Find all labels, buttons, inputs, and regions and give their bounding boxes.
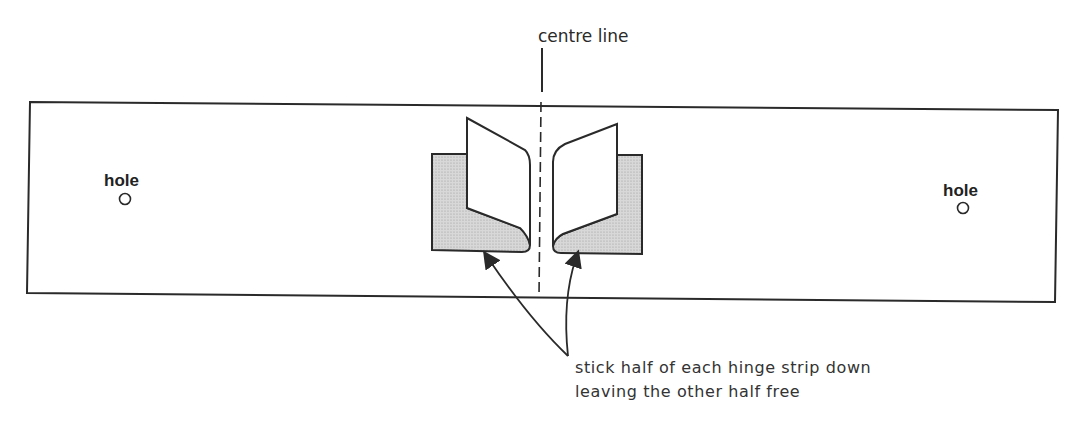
left-hole-icon xyxy=(120,194,131,205)
instruction-line-1: stick half of each hinge strip down xyxy=(575,358,871,377)
right-hole-label: hole xyxy=(943,181,978,200)
arrow-to-left-hinge xyxy=(488,258,568,356)
arrow-to-right-hinge xyxy=(566,258,576,356)
hinge-diagram: centre line hole hole stick half of each… xyxy=(0,0,1082,426)
instruction-line-2: leaving the other half free xyxy=(575,382,800,401)
right-hole-icon xyxy=(958,203,969,214)
centre-line-label: centre line xyxy=(538,26,628,46)
centre-line-dashed xyxy=(539,102,541,297)
strip-outline xyxy=(27,102,1058,302)
left-hole-label: hole xyxy=(104,171,139,190)
